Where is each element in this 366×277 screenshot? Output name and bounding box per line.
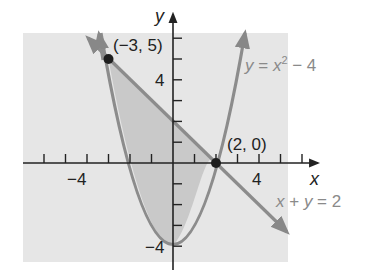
point-label-neg3-5: (−3, 5) <box>113 36 163 55</box>
point-neg3-5 <box>104 54 114 64</box>
x-tick-label-neg4: −4 <box>67 170 86 189</box>
x-tick-label-4: 4 <box>252 170 261 189</box>
equation-label-line: x + y = 2 <box>275 192 341 211</box>
point-label-2-0: (2, 0) <box>227 135 267 154</box>
x-axis-label: x <box>309 169 320 189</box>
graph-canvas: −4 4 4 −4 x y (−3, 5) (2, 0) y = x2 − 4 … <box>0 0 366 277</box>
point-2-0 <box>211 158 221 168</box>
y-axis-label: y <box>153 6 165 26</box>
equation-label-parabola: y = x2 − 4 <box>244 54 316 75</box>
y-tick-label-4: 4 <box>155 71 164 90</box>
y-tick-label-neg4: −4 <box>145 238 164 257</box>
